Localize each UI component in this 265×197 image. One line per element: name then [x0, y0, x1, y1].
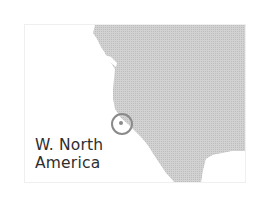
- region-label-line2: America: [35, 154, 103, 172]
- region-label: W. North America: [35, 136, 103, 172]
- region-label-line1: W. North: [35, 136, 103, 154]
